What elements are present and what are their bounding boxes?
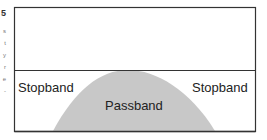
stopband-right-label: Stopband — [192, 80, 248, 95]
stopband-left-label: Stopband — [18, 80, 74, 95]
filter-response-diagram — [0, 0, 267, 140]
passband-label: Passband — [105, 98, 163, 113]
